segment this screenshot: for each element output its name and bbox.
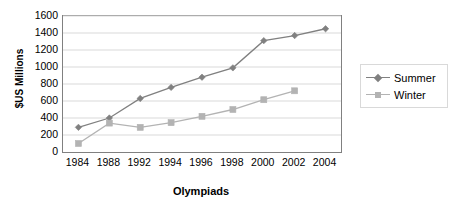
- legend-marker-square-icon: [375, 92, 381, 98]
- plot-area: [62, 15, 342, 153]
- data-point-marker: [168, 84, 174, 90]
- data-point-marker: [75, 141, 81, 147]
- data-point-marker: [292, 88, 298, 94]
- y-axis-tick-label: 1600: [20, 10, 58, 20]
- data-point-marker: [199, 113, 205, 119]
- y-axis-tick-label: 1000: [20, 61, 58, 71]
- x-axis-tick-labels: 198419881992199419961998200020022004: [62, 156, 340, 172]
- chart-legend: SummerWinter: [360, 64, 448, 108]
- y-axis-tick-label: 0: [20, 146, 58, 156]
- data-series-layer: [63, 16, 341, 152]
- data-point-marker: [322, 26, 328, 32]
- data-point-marker: [106, 120, 112, 126]
- legend-label: Winter: [390, 89, 426, 101]
- y-axis-tick-labels: 16001400120010008006004002000: [20, 10, 58, 151]
- line-chart: $US Millions 160014001200100080060040020…: [0, 0, 457, 211]
- y-axis-tick-label: 1400: [20, 27, 58, 37]
- data-point-marker: [261, 97, 267, 103]
- legend-label: Summer: [390, 72, 436, 84]
- legend-marker-diamond-icon: [374, 73, 382, 81]
- legend-swatch-icon: [366, 72, 390, 83]
- x-axis-title: Olympiads: [62, 185, 340, 197]
- data-point-marker: [230, 107, 236, 113]
- y-axis-tick-label: 800: [20, 78, 58, 88]
- data-point-marker: [137, 124, 143, 130]
- y-axis-tick-label: 600: [20, 95, 58, 105]
- legend-swatch-icon: [366, 89, 390, 100]
- y-axis-tick-label: 200: [20, 129, 58, 139]
- data-point-marker: [75, 124, 81, 130]
- x-axis-tick-label: 2004: [302, 156, 348, 168]
- data-point-marker: [137, 95, 143, 101]
- data-point-marker: [168, 120, 174, 126]
- data-point-marker: [291, 32, 297, 38]
- legend-item-winter[interactable]: Winter: [364, 86, 444, 103]
- y-axis-tick-label: 400: [20, 112, 58, 122]
- data-point-marker: [199, 74, 205, 80]
- y-axis-tick-label: 1200: [20, 44, 58, 54]
- legend-item-summer[interactable]: Summer: [364, 69, 444, 86]
